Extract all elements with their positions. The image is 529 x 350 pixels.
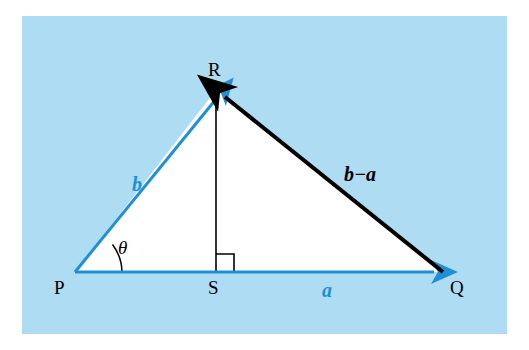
label-theta: θ bbox=[118, 238, 127, 257]
label-R: R bbox=[208, 60, 221, 79]
figure-panel-background: P Q R S θ b a b−a bbox=[22, 16, 507, 334]
vector-triangle-figure: P Q R S θ b a b−a bbox=[0, 0, 529, 350]
label-vector-a: a bbox=[322, 280, 332, 300]
label-S: S bbox=[208, 278, 219, 297]
figure-svg bbox=[22, 16, 507, 334]
triangle-interior bbox=[75, 90, 443, 272]
label-vector-b-minus-a: b−a bbox=[344, 164, 376, 184]
label-Q: Q bbox=[450, 278, 464, 297]
label-P: P bbox=[54, 278, 65, 297]
label-vector-b: b bbox=[132, 174, 142, 194]
